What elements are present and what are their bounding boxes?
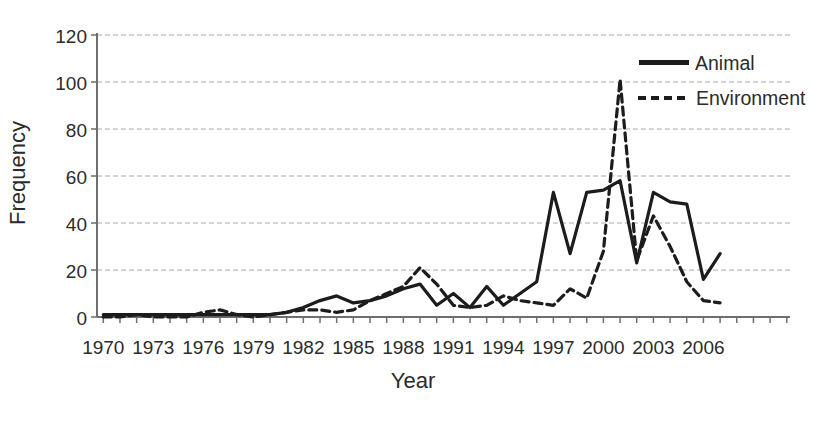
y-tick-label: 0 xyxy=(76,308,87,329)
environment-line xyxy=(103,80,720,317)
x-tick-label: 1973 xyxy=(132,337,174,358)
y-tick-label: 120 xyxy=(55,26,87,47)
frequency-chart: 0204060801001201970197319761979198219851… xyxy=(0,0,817,422)
y-tick-label: 80 xyxy=(66,120,87,141)
x-tick-label: 1976 xyxy=(182,337,224,358)
x-tick-label: 2000 xyxy=(582,337,624,358)
y-tick-label: 20 xyxy=(66,261,87,282)
animal-line xyxy=(103,181,720,315)
x-axis-title: Year xyxy=(391,368,435,394)
x-tick-label: 2006 xyxy=(682,337,724,358)
animal-legend-swatch xyxy=(639,60,689,65)
x-tick-label: 1979 xyxy=(232,337,274,358)
x-tick-label: 1994 xyxy=(482,337,525,358)
y-tick-label: 60 xyxy=(66,167,87,188)
x-tick-label: 1988 xyxy=(382,337,424,358)
environment-legend-swatch xyxy=(638,96,690,100)
environment-legend-label: Environment xyxy=(696,87,805,110)
y-tick-label: 100 xyxy=(55,73,87,94)
y-tick-label: 40 xyxy=(66,214,87,235)
animal-legend-label: Animal xyxy=(695,52,755,75)
x-tick-label: 1997 xyxy=(532,337,574,358)
x-tick-label: 1982 xyxy=(282,337,324,358)
x-tick-label: 1985 xyxy=(332,337,374,358)
y-axis-title: Frequency xyxy=(5,121,31,225)
x-tick-label: 1991 xyxy=(432,337,474,358)
x-tick-label: 1970 xyxy=(82,337,124,358)
x-tick-label: 2003 xyxy=(632,337,674,358)
